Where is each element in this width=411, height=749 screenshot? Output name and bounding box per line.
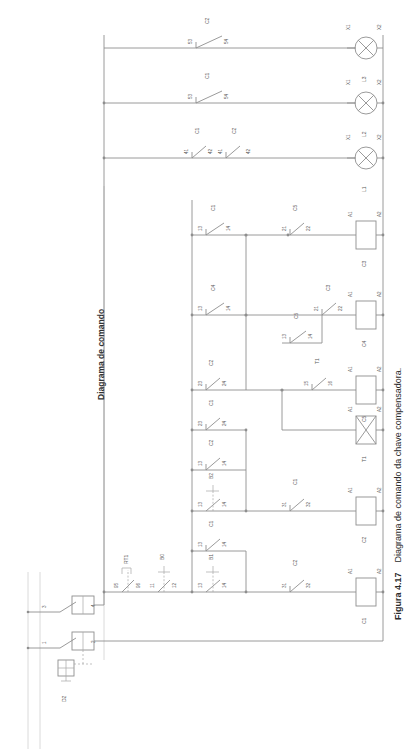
lamp-rung-l1: 41 42 C1 41 42 C2 X1 X2 L1: [103, 127, 385, 192]
svg-text:X2: X2: [377, 79, 382, 85]
figure-caption-text: Diagrama de comando da chave compensador…: [393, 368, 403, 563]
svg-text:3: 3: [42, 605, 47, 608]
svg-text:A1: A1: [348, 366, 353, 372]
svg-text:54: 54: [224, 93, 229, 99]
svg-text:A2: A2: [377, 487, 382, 493]
figure-number: Figura 4.17: [393, 572, 403, 620]
svg-text:A1: A1: [348, 406, 353, 412]
label-coil-c3: C3: [361, 260, 367, 267]
svg-text:15: 15: [304, 380, 309, 386]
svg-text:A1: A1: [348, 487, 353, 493]
svg-text:C5: C5: [293, 312, 299, 319]
svg-text:95: 95: [114, 582, 119, 588]
svg-text:13: 13: [282, 333, 287, 339]
svg-text:C1: C1: [210, 204, 216, 211]
svg-text:13: 13: [198, 582, 203, 588]
svg-text:96: 96: [136, 582, 141, 588]
svg-text:A1: A1: [348, 291, 353, 297]
svg-text:16: 16: [328, 380, 333, 386]
lamp-rung-l3: 53 54 C2 X1 X2 L3: [104, 17, 383, 82]
svg-text:X1: X1: [346, 79, 351, 85]
rung-c1: 13 14 B1 31 32 C2 A1 A2 C1: [192, 554, 384, 624]
svg-text:21: 21: [282, 225, 287, 231]
svg-text:X2: X2: [377, 24, 382, 30]
label-b1: B1: [208, 554, 214, 560]
svg-text:42: 42: [208, 148, 213, 154]
rung-c2: 13 14 B2 31 32 C1 A1 A2 C2: [191, 473, 385, 543]
rung-c3: 13 14 C1 21 22 C5 A1 A2 C3: [191, 204, 385, 315]
svg-text:C1: C1: [208, 399, 214, 406]
svg-text:C2: C2: [208, 439, 214, 446]
svg-text:1: 1: [42, 641, 47, 644]
label-lamp-l1: L1: [361, 186, 367, 192]
label-coil-c2: C2: [361, 536, 367, 543]
svg-text:C2: C2: [204, 17, 210, 24]
svg-text:14: 14: [308, 333, 313, 339]
svg-text:4: 4: [91, 604, 96, 607]
rung-c5: 23 24 C1 23 24 C2 15 16 T1: [191, 358, 385, 470]
label-lamp-l2: L2: [361, 131, 367, 137]
svg-text:C2: C2: [231, 127, 237, 134]
protection-row: 95 96 RT1 11 12 B0: [103, 200, 194, 593]
svg-text:32: 32: [306, 582, 311, 588]
svg-text:C1: C1: [194, 127, 200, 134]
svg-text:C1: C1: [292, 478, 298, 485]
svg-text:31: 31: [282, 582, 287, 588]
label-rt1: RT1: [123, 554, 129, 564]
svg-text:C2: C2: [208, 359, 214, 366]
svg-text:13: 13: [198, 305, 203, 311]
svg-text:A1: A1: [348, 568, 353, 574]
svg-text:C3: C3: [325, 284, 331, 291]
svg-text:C4: C4: [210, 284, 216, 291]
svg-text:41: 41: [218, 148, 223, 154]
ladder-diagram-canvas: 3 1 4 2 D2: [0, 0, 411, 749]
svg-text:14: 14: [222, 541, 227, 547]
svg-text:X1: X1: [346, 24, 351, 30]
svg-text:42: 42: [246, 148, 251, 154]
svg-text:11: 11: [150, 583, 155, 588]
svg-text:X1: X1: [346, 134, 351, 140]
svg-text:A1: A1: [348, 211, 353, 217]
figure-page: 3 1 4 2 D2: [0, 0, 411, 749]
svg-text:A2: A2: [377, 406, 382, 412]
svg-text:C1: C1: [204, 72, 210, 79]
svg-text:C1: C1: [208, 520, 214, 527]
svg-text:13: 13: [198, 501, 203, 507]
label-coil-c5: C5: [361, 415, 367, 422]
svg-text:14: 14: [222, 501, 227, 507]
svg-text:14: 14: [222, 582, 227, 588]
svg-text:C5: C5: [292, 204, 298, 211]
svg-text:13: 13: [198, 541, 203, 547]
svg-text:53: 53: [188, 38, 193, 44]
label-t1-contact: T1: [314, 358, 320, 364]
svg-text:12: 12: [172, 582, 177, 588]
label-coil-c1: C1: [361, 617, 367, 624]
svg-text:13: 13: [198, 225, 203, 231]
svg-text:A2: A2: [377, 291, 382, 297]
svg-text:23: 23: [198, 420, 203, 426]
svg-text:32: 32: [306, 501, 311, 507]
svg-text:22: 22: [338, 305, 343, 311]
svg-text:24: 24: [222, 380, 227, 386]
svg-text:14: 14: [226, 305, 231, 311]
label-b0: B0: [159, 554, 165, 560]
svg-text:31: 31: [282, 501, 287, 507]
label-coil-t1: T1: [361, 456, 367, 462]
svg-text:14: 14: [222, 460, 227, 466]
svg-text:14: 14: [226, 225, 231, 231]
figure-caption: Figura 4.17 Diagrama de comando da chave…: [393, 368, 403, 620]
svg-text:13: 13: [198, 460, 203, 466]
svg-text:X2: X2: [377, 134, 382, 140]
label-d2: D2: [61, 695, 67, 702]
svg-text:21: 21: [314, 305, 319, 311]
label-coil-c4: C4: [361, 340, 367, 347]
rung-t1: 13 14 C2 A1 A2 T1: [191, 406, 385, 511]
svg-text:A2: A2: [377, 366, 382, 372]
svg-text:24: 24: [222, 420, 227, 426]
label-b2: B2: [208, 473, 214, 479]
rung-c4: 13 14 C4 13 14 C5 21 22 C3 A1 A2: [191, 284, 385, 390]
label-lamp-l3: L3: [361, 76, 367, 82]
svg-text:22: 22: [306, 225, 311, 231]
label-c2-contact: C2: [292, 559, 298, 566]
svg-text:A2: A2: [377, 568, 382, 574]
